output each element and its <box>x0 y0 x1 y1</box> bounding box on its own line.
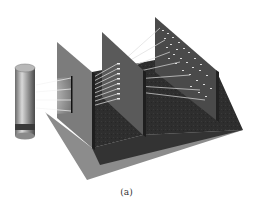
light-source-cylinder <box>15 64 35 140</box>
figure-caption: (a) <box>0 187 253 197</box>
light-beam <box>36 76 72 115</box>
multi-slit-diagram <box>0 0 253 209</box>
